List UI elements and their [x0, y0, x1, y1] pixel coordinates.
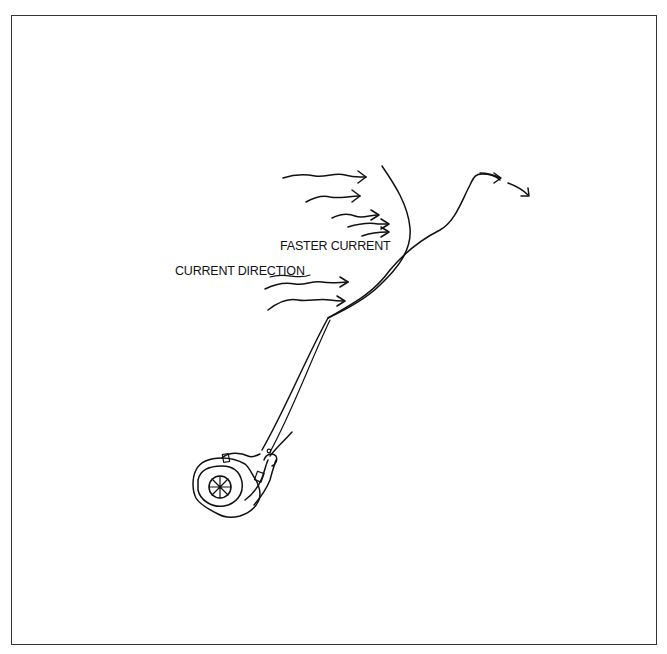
diagram-canvas	[0, 0, 667, 654]
angler-figure	[193, 432, 292, 517]
current-direction-label: CURRENT DIRECTION	[175, 264, 305, 278]
fishing-line-secondary	[270, 320, 330, 452]
fishing-line	[262, 174, 500, 450]
current-arrow-7	[268, 296, 345, 310]
current-arrow-1	[283, 171, 366, 183]
current-arrow-6	[265, 277, 348, 289]
current-arrow-2	[306, 190, 360, 202]
drift-arrow-2	[508, 183, 529, 196]
faster-current-label: FASTER CURRENT	[280, 239, 390, 253]
current-arrow-5	[362, 227, 389, 237]
current-arrow-3	[332, 210, 379, 220]
